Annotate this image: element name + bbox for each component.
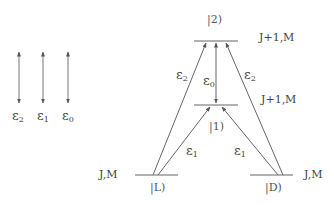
legend-eps0: ε0 (62, 109, 74, 124)
eps-symbol: ε (186, 143, 193, 158)
legend-arrows (19, 52, 68, 103)
eps-symbol: ε (244, 67, 251, 82)
label-L-2: ε2 (176, 68, 188, 83)
eps-symbol: ε (62, 108, 69, 123)
eps-subscript: 2 (19, 115, 24, 124)
label-D-1: ε1 (234, 144, 246, 159)
label-L-1: ε1 (186, 144, 198, 159)
eps-subscript: 1 (193, 150, 198, 159)
eps-symbol: ε (12, 108, 19, 123)
quantum-right: J,M (304, 169, 323, 180)
legend-eps1: ε1 (37, 109, 49, 124)
eps-symbol: ε (234, 143, 241, 158)
legend-eps2: ε2 (12, 109, 24, 124)
quantum-left: J,M (99, 169, 118, 180)
ket-1: |1) (209, 121, 224, 132)
eps-symbol: ε (203, 73, 210, 88)
eps-subscript: 1 (241, 150, 246, 159)
ket-D: |D) (265, 182, 282, 193)
eps-subscript: 0 (210, 80, 215, 89)
quantum-top: J+1,M (259, 32, 294, 43)
transition-L-1 (158, 107, 210, 175)
ket-2: |2) (207, 14, 222, 25)
eps-subscript: 1 (44, 115, 49, 124)
transition-L-2 (153, 43, 206, 175)
transitions (153, 43, 283, 175)
label-2-1: ε0 (203, 74, 215, 89)
eps-symbol: ε (176, 67, 183, 82)
label-D-2: ε2 (244, 68, 256, 83)
eps-symbol: ε (37, 108, 44, 123)
ket-L: |L) (150, 182, 165, 193)
eps-subscript: 2 (251, 74, 256, 83)
eps-subscript: 2 (183, 74, 188, 83)
quantum-middle: J+1,M (261, 94, 296, 105)
eps-subscript: 0 (69, 115, 74, 124)
transition-D-1 (222, 107, 278, 175)
energy-levels (135, 41, 293, 175)
